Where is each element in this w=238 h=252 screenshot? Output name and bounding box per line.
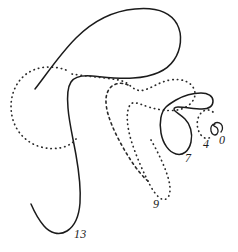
large-dotted-outline [72,74,195,200]
figure-canvas: 13 9 7 4 0 [0,0,238,252]
label-7: 7 [185,152,191,164]
label-9: 9 [153,198,159,210]
label-0: 0 [219,134,225,146]
inner-dotted-teardrop [106,83,149,182]
small-dotted-arc [197,110,213,138]
label-4: 4 [203,138,209,150]
figure-linework [0,0,238,252]
left-dotted-circle [11,67,76,149]
label-13: 13 [74,228,87,240]
